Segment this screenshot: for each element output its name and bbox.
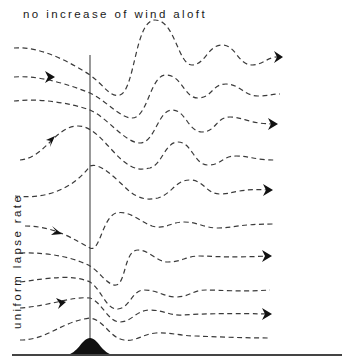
side-axis-label: uniform lapse rate <box>11 189 23 329</box>
mountain-ridge <box>66 338 114 355</box>
streamline-5 <box>15 165 270 199</box>
streamline-4 <box>20 126 275 169</box>
streamline-1 <box>14 20 283 95</box>
streamline-9 <box>20 298 270 322</box>
streamline-10 <box>20 318 270 340</box>
streamline-8 <box>20 277 270 309</box>
arrowhead-icon <box>45 71 55 83</box>
arrowhead-icon <box>56 298 66 309</box>
streamline-2 <box>14 75 280 118</box>
lee-wave-diagram: no increase of wind aloft uniform lapse … <box>0 0 342 364</box>
arrowhead-icon <box>263 184 273 196</box>
diagram-svg <box>0 0 342 364</box>
streamline-7 <box>20 250 270 285</box>
streamline-6 <box>25 213 275 249</box>
arrowhead-icon <box>262 250 272 262</box>
diagram-title: no increase of wind aloft <box>23 8 207 20</box>
